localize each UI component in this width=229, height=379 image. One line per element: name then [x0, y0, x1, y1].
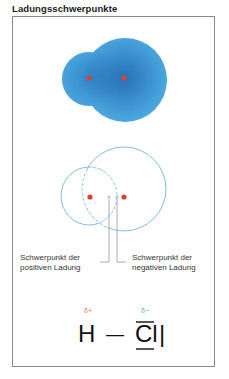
chlorine-nucleus-icon [121, 194, 126, 199]
charge-circles [61, 147, 166, 231]
leader-lines [100, 199, 126, 262]
chlorine-nucleus-icon [121, 75, 126, 80]
label-line: positiven Ladung [20, 263, 81, 273]
delta-plus: δ+ [84, 307, 92, 314]
positive-charge-label: Schwerpunkt der positiven Ladung [20, 253, 81, 273]
positive-center-marker [107, 195, 110, 198]
label-line: negativen Ladung [132, 263, 196, 273]
electron-cloud [59, 36, 167, 122]
negative-charge-label: Schwerpunkt der negativen Ladung [132, 253, 196, 273]
hydrogen-nucleus-icon [86, 75, 91, 80]
label-line: Schwerpunkt der [20, 253, 81, 263]
atom-hydrogen: H [78, 320, 95, 348]
delta-minus: δ− [141, 307, 149, 314]
label-line: Schwerpunkt der [132, 253, 196, 263]
negative-center-marker [116, 196, 119, 199]
hydrogen-nucleus-icon [87, 194, 92, 199]
covalent-bond: — [106, 320, 124, 348]
lone-pair-bar: | [159, 320, 165, 348]
atom-chlorine: Cl [135, 320, 158, 348]
